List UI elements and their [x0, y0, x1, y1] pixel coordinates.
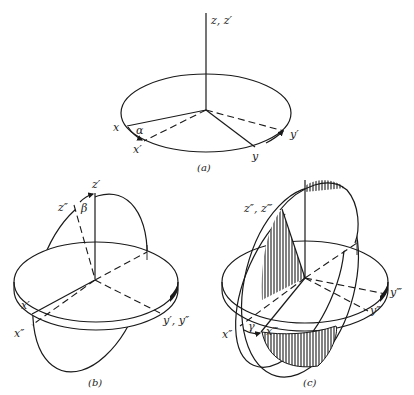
caption-c: (c) — [303, 377, 317, 388]
y-triple-axis — [305, 278, 386, 294]
z-axes-label-c: z″, z‴ — [243, 202, 273, 215]
panel-b: z′ z″ β x′ x″ y′, y″ (b) — [12, 178, 190, 388]
y-label: y — [251, 150, 259, 163]
x-double-label-c: x″ — [222, 328, 233, 341]
x-prime-axis — [144, 110, 206, 141]
y-prime-axis — [206, 110, 284, 131]
y-axes-label-b: y′, y″ — [162, 314, 190, 327]
y-double-axis — [305, 278, 368, 311]
y-triple-label-c: y‴ — [389, 286, 402, 299]
x-prime-label-b: x′ — [21, 299, 30, 312]
caption-b: (b) — [88, 377, 102, 388]
x-double-label-b: x″ — [14, 327, 25, 340]
alpha-label: α — [136, 124, 144, 137]
caption-a: (a) — [197, 162, 211, 173]
y-rotation-arrow — [266, 131, 283, 143]
x-triple-label-c: x‴ — [266, 325, 278, 338]
beta-label: β — [80, 202, 87, 215]
x-prime-label: x′ — [133, 143, 142, 156]
panel-c: z″, z‴ x″ γ x‴ y″ y‴ (c) — [213, 175, 402, 390]
z-double-label-b: z″ — [57, 201, 69, 214]
z-axis-label: z, z′ — [210, 14, 233, 27]
y-prime-label: y′ — [289, 128, 299, 141]
y-axis — [206, 110, 255, 147]
euler-angles-diagram: z, z′ x α x′ y y′ (a) z′ z″ β x′ x″ y′, … — [0, 0, 414, 395]
gamma-label: γ — [248, 320, 255, 333]
y-double-label-c: y″ — [369, 304, 381, 317]
panel-a: z, z′ x α x′ y y′ (a) — [113, 13, 299, 173]
x-label: x — [113, 121, 120, 134]
z-prime-label-b: z′ — [91, 178, 101, 191]
